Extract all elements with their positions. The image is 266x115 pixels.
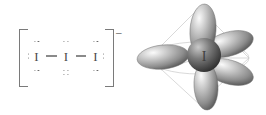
lewis-atom-chain: I I I xyxy=(28,38,104,74)
orbital-lobe-equatorial-left xyxy=(136,42,190,71)
atom-symbol: I xyxy=(64,50,68,63)
ion-charge-label: – xyxy=(116,28,122,38)
lewis-atom-terminal-left: I xyxy=(28,38,45,74)
lewis-atom-central: I xyxy=(58,38,75,74)
lone-pair-bottom-icon xyxy=(34,70,39,71)
bracket-left xyxy=(19,29,28,87)
lone-pair-right-icon xyxy=(103,53,104,58)
lone-pair-top-icon xyxy=(63,41,68,42)
lewis-structure-diagram: – I I I xyxy=(0,0,133,115)
bond-line-left xyxy=(46,55,57,56)
figure-canvas: – I I I xyxy=(0,0,266,115)
lone-pair-top-icon xyxy=(34,41,39,42)
lone-pair-bottom-icon xyxy=(93,70,98,71)
orbital-model-diagram: I xyxy=(133,0,266,115)
bond-line-right xyxy=(76,55,87,56)
lone-pair-top-icon xyxy=(93,41,98,42)
lewis-atom-terminal-right: I xyxy=(87,38,104,74)
lone-pair-bottom-icon xyxy=(63,70,68,71)
lone-pair-bottom-second-icon xyxy=(63,74,68,75)
lone-pair-left-icon xyxy=(28,53,29,58)
bracket-right xyxy=(105,29,114,87)
orbital-model-svg: I xyxy=(133,0,266,115)
atom-symbol: I xyxy=(34,50,38,63)
central-atom-label: I xyxy=(202,49,207,64)
atom-symbol: I xyxy=(93,50,97,63)
